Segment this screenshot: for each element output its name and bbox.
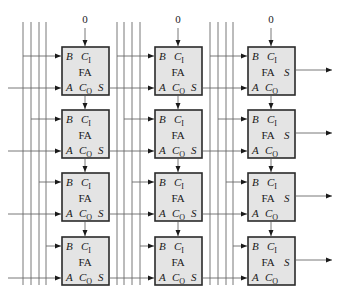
b-input-arrow-icon — [55, 180, 61, 185]
full-adder-name-label: FA — [78, 256, 91, 268]
b-input-arrow-icon — [241, 54, 247, 59]
port-b-label: B — [159, 240, 166, 252]
port-a-label: A — [251, 144, 259, 156]
carry-chain-arrow-icon — [269, 103, 274, 109]
b-input-arrow-icon — [148, 180, 154, 185]
carry-chain-arrow-icon — [83, 103, 88, 109]
full-adder-cell-c1-r3: BCIFAACOS — [155, 237, 202, 286]
carry-chain-arrow-icon — [83, 230, 88, 236]
port-sum-label: S — [191, 81, 197, 93]
carry-in-zero-label-c2: 0 — [268, 13, 274, 25]
a-input-arrow-icon — [55, 86, 61, 91]
full-adder-name-label: FA — [171, 192, 184, 204]
port-b-label: B — [66, 240, 73, 252]
port-a-label: A — [251, 271, 259, 283]
full-adder-cell-c1-r0: BCIFAACOS — [155, 47, 202, 96]
full-adder-cell-c2-r3: BCIFAACOS — [248, 237, 295, 286]
carry-chain-arrow-icon — [176, 230, 181, 236]
full-adder-cell-c0-r1: BCIFAACOS — [62, 110, 109, 159]
b-input-arrow-icon — [148, 117, 154, 122]
full-adder-name-label: FA — [78, 129, 91, 141]
port-a-label: A — [65, 271, 73, 283]
port-b-label: B — [66, 50, 73, 62]
a-input-arrow-icon — [148, 276, 154, 281]
carry-chain-arrow-icon — [269, 230, 274, 236]
port-sum-label: S — [98, 271, 104, 283]
sum-output-arrow-icon — [326, 194, 332, 199]
port-a-label: A — [65, 81, 73, 93]
full-adder-cell-c2-r0: BCIFAACOS — [248, 47, 295, 96]
a-input-arrow-icon — [241, 149, 247, 154]
b-input-arrow-icon — [55, 117, 61, 122]
carry-in-zero-label-c1: 0 — [175, 13, 181, 25]
a-input-arrow-icon — [241, 276, 247, 281]
full-adder-cell-c1-r1: BCIFAACOS — [155, 110, 202, 159]
b-input-arrow-icon — [241, 117, 247, 122]
full-adder-cell-c0-r3: BCIFAACOS — [62, 237, 109, 286]
port-sum-label: S — [191, 144, 197, 156]
port-b-label: B — [252, 176, 259, 188]
b-input-arrow-icon — [241, 244, 247, 249]
port-sum-label: S — [284, 129, 290, 141]
full-adder-name-label: FA — [78, 66, 91, 78]
port-b-label: B — [159, 176, 166, 188]
full-adder-cell-c2-r2: BCIFAACOS — [248, 173, 295, 222]
full-adder-name-label: FA — [171, 256, 184, 268]
port-a-label: A — [158, 81, 166, 93]
carry-chain-arrow-icon — [176, 166, 181, 172]
a-input-arrow-icon — [55, 276, 61, 281]
port-a-label: A — [158, 207, 166, 219]
port-sum-label: S — [191, 207, 197, 219]
port-sum-label: S — [98, 81, 104, 93]
sum-output-arrow-icon — [326, 258, 332, 263]
a-input-arrow-icon — [148, 86, 154, 91]
b-input-arrow-icon — [241, 180, 247, 185]
full-adder-name-label: FA — [171, 66, 184, 78]
full-adder-name-label: FA — [171, 129, 184, 141]
a-input-arrow-icon — [55, 149, 61, 154]
port-b-label: B — [252, 113, 259, 125]
port-a-label: A — [158, 271, 166, 283]
carry-chain-arrow-icon — [83, 166, 88, 172]
full-adder-name-label: FA — [78, 192, 91, 204]
port-sum-label: S — [98, 144, 104, 156]
carry-in-zero-label-c0: 0 — [82, 13, 88, 25]
full-adder-name-label: FA — [261, 192, 274, 204]
port-b-label: B — [66, 176, 73, 188]
port-a-label: A — [251, 81, 259, 93]
full-adder-cell-c1-r2: BCIFAACOS — [155, 173, 202, 222]
sum-output-arrow-icon — [326, 68, 332, 73]
full-adder-array-diagram: 000BCIFAACOSBCIFAACOSBCIFAACOSBCIFAACOSB… — [0, 0, 347, 305]
b-input-arrow-icon — [55, 54, 61, 59]
port-b-label: B — [159, 113, 166, 125]
port-a-label: A — [158, 144, 166, 156]
port-b-label: B — [252, 50, 259, 62]
b-input-arrow-icon — [148, 54, 154, 59]
port-a-label: A — [251, 207, 259, 219]
a-input-arrow-icon — [241, 212, 247, 217]
port-b-label: B — [66, 113, 73, 125]
a-input-arrow-icon — [148, 149, 154, 154]
port-b-label: B — [159, 50, 166, 62]
a-input-arrow-icon — [148, 212, 154, 217]
carry-chain-arrow-icon — [269, 166, 274, 172]
full-adder-cell-c2-r1: BCIFAACOS — [248, 110, 295, 159]
b-input-arrow-icon — [55, 244, 61, 249]
sum-output-arrow-icon — [326, 131, 332, 136]
b-input-arrow-icon — [148, 244, 154, 249]
carry-chain-arrow-icon — [176, 103, 181, 109]
full-adder-name-label: FA — [261, 129, 274, 141]
full-adder-cell-c0-r0: BCIFAACOS — [62, 47, 109, 96]
port-sum-label: S — [191, 271, 197, 283]
port-a-label: A — [65, 144, 73, 156]
port-sum-label: S — [98, 207, 104, 219]
port-sum-label: S — [284, 256, 290, 268]
full-adder-cell-c0-r2: BCIFAACOS — [62, 173, 109, 222]
port-a-label: A — [65, 207, 73, 219]
carry-in-arrow-icon — [83, 40, 88, 46]
full-adder-name-label: FA — [261, 256, 274, 268]
a-input-arrow-icon — [241, 86, 247, 91]
port-sum-label: S — [284, 192, 290, 204]
carry-in-arrow-icon — [176, 40, 181, 46]
port-sum-label: S — [284, 66, 290, 78]
